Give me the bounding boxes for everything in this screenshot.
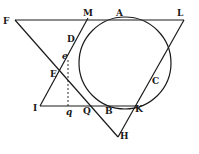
line-LH: [118, 20, 184, 137]
label-L: L: [177, 8, 184, 18]
label-A: A: [115, 8, 124, 18]
label-H: H: [120, 131, 129, 141]
label-I: I: [33, 103, 37, 113]
label-q: q: [66, 107, 72, 117]
geometry-figure: F M A L D e E C I q Q B K H: [0, 0, 199, 154]
label-F: F: [3, 16, 10, 26]
line-MI: [40, 18, 88, 106]
label-E: E: [50, 69, 57, 79]
label-K: K: [135, 104, 144, 114]
label-D: D: [67, 34, 75, 44]
label-e: e: [62, 51, 68, 61]
inscribed-circle: [79, 17, 171, 109]
label-Q: Q: [83, 106, 91, 116]
label-C: C: [152, 76, 159, 86]
label-M: M: [83, 8, 93, 18]
label-B: B: [105, 106, 113, 116]
